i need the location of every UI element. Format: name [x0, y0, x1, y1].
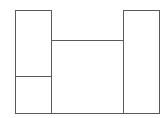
right-box — [123, 10, 160, 114]
left-box-divider — [15, 76, 52, 77]
diagram-canvas — [0, 0, 167, 118]
center-box — [51, 40, 124, 114]
left-box — [15, 10, 52, 114]
